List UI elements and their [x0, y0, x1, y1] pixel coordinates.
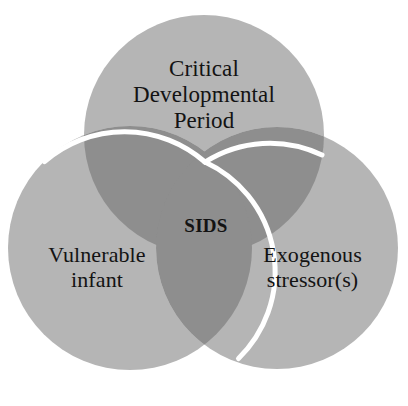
venn-diagram: Critical Developmental Period Vulnerable…	[0, 0, 408, 406]
venn-diagram-canvas	[0, 0, 408, 406]
